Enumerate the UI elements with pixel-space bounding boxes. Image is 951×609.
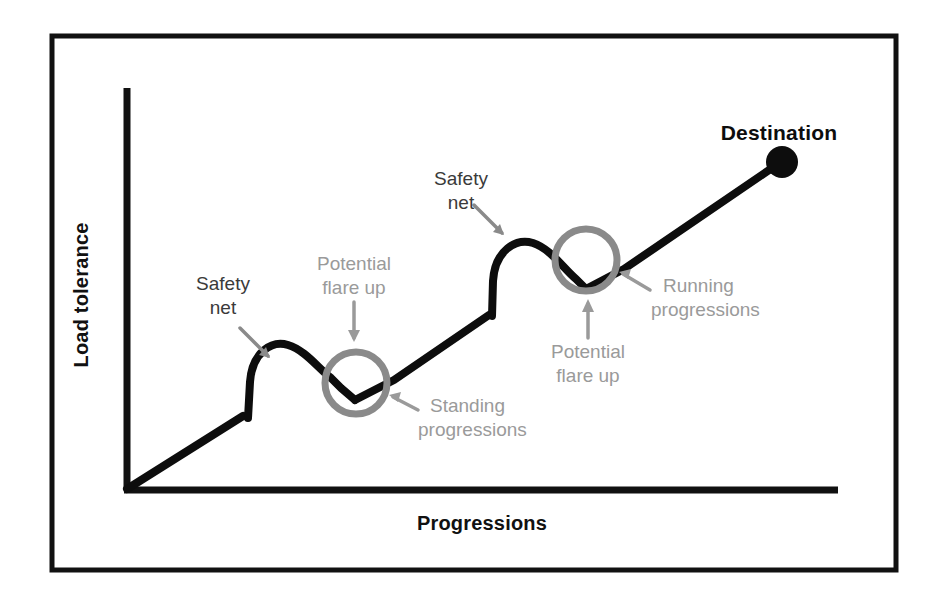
diagram-canvas: Load tolerance Progressions Destination …: [0, 0, 951, 609]
destination-dot-icon: [766, 146, 798, 178]
safety-net-2-label-line2: net: [448, 192, 475, 213]
y-axis-title: Load tolerance: [70, 222, 92, 367]
load-tolerance-progressions-diagram: Load tolerance Progressions Destination …: [0, 0, 951, 609]
flare-up-1-label-line1: Potential: [317, 253, 391, 274]
destination-label: Destination: [721, 121, 838, 144]
running-progressions-label-line1: Running: [663, 275, 734, 296]
flare-up-1-label-line2: flare up: [322, 277, 385, 298]
flare-up-2-label-line2: flare up: [556, 365, 619, 386]
safety-net-1-label-line2: net: [210, 297, 237, 318]
standing-progressions-label-line1: Standing: [430, 395, 505, 416]
standing-progressions-label-line2: progressions: [418, 419, 527, 440]
safety-net-1-label-line1: Safety: [196, 273, 250, 294]
safety-net-2-label-line1: Safety: [434, 168, 488, 189]
x-axis-title: Progressions: [417, 512, 547, 534]
running-progressions-label-line2: progressions: [651, 299, 760, 320]
flare-up-2-label-line1: Potential: [551, 341, 625, 362]
